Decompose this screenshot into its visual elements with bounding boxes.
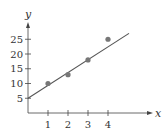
data-point [85,57,90,62]
scatter-chart: xy1234510152025 [0,0,163,138]
y-tick-label: 15 [10,63,23,74]
x-tick-label: 1 [45,119,51,130]
data-point [45,81,50,86]
y-tick-label: 25 [10,34,23,45]
x-tick-label: 2 [65,119,71,130]
y-tick-label: 20 [10,49,23,60]
y-axis-arrow-icon [26,22,30,28]
x-axis-label: x [155,107,162,120]
y-axis-label: y [24,8,32,21]
y-tick-label: 10 [10,78,23,89]
x-tick-label: 4 [105,119,111,130]
data-point [105,37,110,42]
y-tick-label: 5 [17,93,23,104]
x-tick-label: 3 [85,119,91,130]
fit-line [28,33,129,98]
x-axis-arrow-icon [147,111,153,115]
data-point [65,72,70,77]
